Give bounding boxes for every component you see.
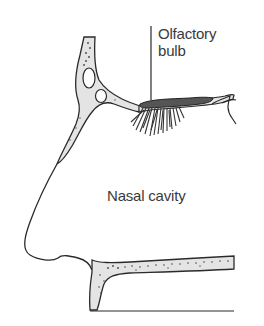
hard-palate-bone — [90, 256, 234, 310]
sinus-cavity-lower — [96, 90, 107, 103]
olfactory-bulb-label: Olfactory bulb — [158, 25, 216, 59]
olfactory-bulb-label-line1: Olfactory — [158, 25, 216, 42]
sinus-cavity-upper — [83, 68, 95, 88]
nose-profile-outline — [25, 164, 92, 270]
nasal-cavity-label: Nasal cavity — [107, 187, 185, 204]
olfactory-bulb-label-line2: bulb — [158, 42, 216, 59]
nasal-anatomy-diagram — [0, 0, 264, 326]
